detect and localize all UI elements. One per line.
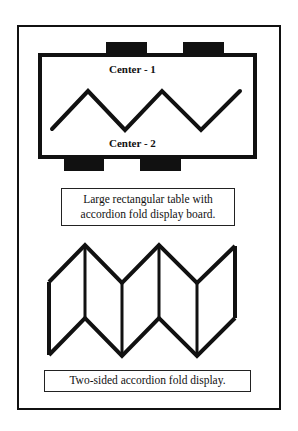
accordion-board-top-view bbox=[52, 91, 240, 130]
table-caption-box: Large rectangular table with accordion f… bbox=[61, 188, 235, 226]
accordion-caption-box: Two-sided accordion fold display. bbox=[44, 370, 251, 392]
table-caption-line-2: accordion fold display board. bbox=[62, 207, 234, 222]
accordion-caption-text: Two-sided accordion fold display. bbox=[69, 374, 225, 386]
table-caption-line-1: Large rectangular table with bbox=[62, 192, 234, 207]
accordion-fold-display bbox=[49, 245, 235, 356]
